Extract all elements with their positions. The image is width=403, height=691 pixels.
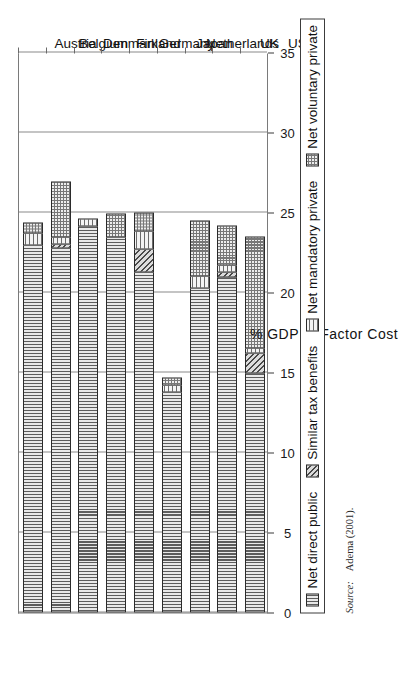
value-tick-label: 25 [273, 206, 303, 221]
bar-segment [190, 220, 210, 276]
legend-swatch-icon [306, 593, 319, 606]
bar-segment [134, 230, 154, 249]
legend-label: Net direct public [305, 491, 320, 588]
bar-row [134, 52, 154, 612]
legend-label: Net voluntary private [305, 25, 320, 149]
category-label: US [253, 36, 343, 51]
value-tick-label: 5 [273, 526, 303, 541]
bar-segment [162, 391, 182, 612]
bar-row [23, 52, 43, 612]
category-tick [46, 47, 47, 53]
bar-row [190, 52, 210, 612]
legend-swatch-icon [306, 153, 319, 166]
category-tick [74, 47, 75, 53]
category-tick [101, 47, 102, 53]
plot-inner [19, 53, 267, 612]
bar-segment [78, 218, 98, 226]
category-tick [212, 47, 213, 53]
category-tick [240, 47, 241, 53]
source-value: Adema (2001). [344, 507, 355, 581]
bar-segment [51, 181, 71, 237]
value-tick-label: 0 [273, 606, 303, 621]
bar-row [106, 52, 126, 612]
legend-swatch-icon [306, 464, 319, 477]
source-label: Source: [344, 581, 355, 613]
category-tick [18, 47, 19, 53]
bar-segment [134, 271, 154, 612]
bar-segment [245, 372, 265, 612]
legend-entry[interactable]: Net voluntary private [305, 25, 320, 167]
bar-segment [162, 377, 182, 385]
bar-segment [217, 225, 237, 265]
bar-row [78, 52, 98, 612]
legend-label: Similar tax benefits [305, 345, 320, 459]
legend-entry[interactable]: Net direct public [305, 491, 320, 606]
bar-segment [190, 275, 210, 288]
legend-label: Net mandatory private [305, 180, 320, 313]
bar-segment [106, 213, 126, 237]
bar-segment [190, 287, 210, 612]
bar-segment [134, 212, 154, 231]
value-tick-label: 20 [273, 286, 303, 301]
category-tick [129, 47, 130, 53]
bar-segment [51, 247, 71, 612]
category-tick [185, 47, 186, 53]
bar-segment [23, 222, 43, 233]
legend-swatch-icon [306, 318, 319, 331]
bar-series-group [19, 53, 267, 612]
value-tick-label: 10 [273, 446, 303, 461]
value-tick-label: 30 [273, 126, 303, 141]
bar-segment [106, 236, 126, 612]
bar-segment [23, 244, 43, 612]
bar-segment [78, 225, 98, 612]
plot-area [18, 53, 268, 613]
bar-segment [245, 352, 265, 373]
bar-segment [134, 248, 154, 272]
bar-segment [23, 232, 43, 245]
legend-entry[interactable]: Similar tax benefits [305, 345, 320, 477]
category-tick [157, 47, 158, 53]
bar-row [162, 52, 182, 612]
value-tick-label: 15 [273, 366, 303, 381]
bar-row [51, 52, 71, 612]
legend-entry[interactable]: Net mandatory private [305, 180, 320, 331]
source-note: Source:Adema (2001). [344, 507, 355, 613]
chart-legend: Net direct publicSimilar tax benefitsNet… [300, 18, 325, 613]
